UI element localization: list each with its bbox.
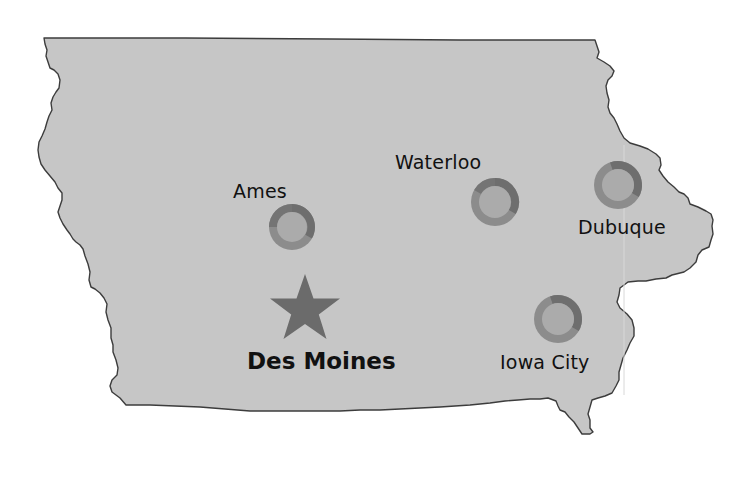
city-marker-iowa-city[interactable]: [534, 295, 582, 343]
city-label-iowa-city: Iowa City: [500, 353, 590, 372]
city-label-ames: Ames: [233, 182, 287, 201]
city-marker-waterloo[interactable]: [471, 178, 519, 226]
city-marker-dubuque[interactable]: [594, 161, 642, 209]
state-map-graphic: [0, 0, 754, 493]
iowa-map: Ames Waterloo Dubuque Iowa City Des Moin…: [0, 0, 754, 493]
city-label-dubuque: Dubuque: [578, 218, 666, 237]
city-marker-ames[interactable]: [269, 204, 315, 250]
capital-label-des-moines: Des Moines: [247, 350, 396, 373]
city-label-waterloo: Waterloo: [395, 153, 481, 172]
